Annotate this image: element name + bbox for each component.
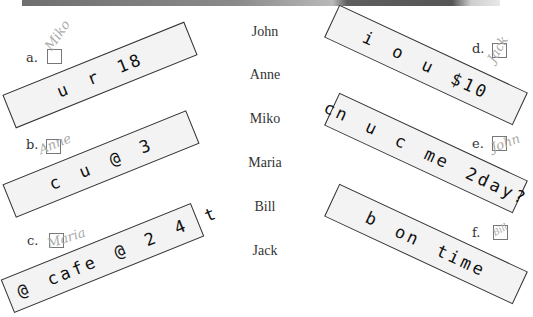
item-b-message-strip: c u @ 3 (2, 110, 199, 218)
item-e-handwriting: John (489, 131, 522, 155)
photo-banner-strip (22, 0, 500, 6)
item-c-letter: c. (27, 233, 38, 248)
item-e-letter: e. (472, 136, 484, 151)
item-d-letter: d. (472, 41, 484, 56)
name-jack: Jack (230, 243, 300, 259)
item-a-letter: a. (26, 50, 38, 65)
item-f-letter: f. (472, 225, 480, 240)
item-a-message-strip: u r 18 (2, 22, 197, 129)
name-miko: Miko (230, 111, 300, 127)
name-bill: Bill (230, 199, 300, 215)
item-c-message-strip: b @ cafe @ 2 4 t (1, 203, 205, 313)
name-john: John (230, 24, 300, 40)
name-maria: Maria (230, 155, 300, 171)
name-anne: Anne (230, 67, 300, 83)
item-d-handwriting: Jack (484, 33, 511, 65)
item-a-handwriting: Miko (42, 17, 73, 53)
